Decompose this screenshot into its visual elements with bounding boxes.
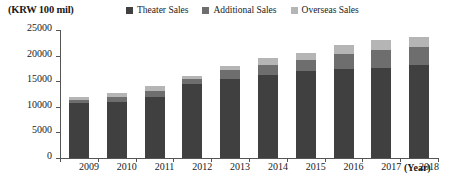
bar-segment [334, 45, 354, 54]
bar-group [371, 40, 391, 158]
bar-segment [69, 103, 89, 158]
legend-item: Overseas Sales [291, 6, 359, 16]
bar-segment [409, 65, 429, 158]
chart-legend: Theater SalesAdditional SalesOverseas Sa… [126, 6, 359, 16]
bar-segment [258, 75, 278, 158]
x-axis-label: 2010 [107, 162, 147, 172]
legend-item: Theater Sales [126, 6, 188, 16]
bar-segment [334, 54, 354, 69]
bar-segment [371, 50, 391, 67]
y-axis-tick-label: 0 [47, 151, 52, 161]
bar-segment [371, 40, 391, 50]
x-axis-label: 2016 [334, 162, 374, 172]
bar-segment [409, 37, 429, 47]
x-axis-label: 2011 [145, 162, 185, 172]
bar-group [220, 66, 240, 158]
bar-segment [220, 79, 240, 158]
x-axis-label: 2009 [69, 162, 109, 172]
y-axis-tick-label: 10000 [27, 100, 52, 110]
bar-segment [334, 69, 354, 158]
x-axis-title: (Year) [404, 162, 431, 173]
stacked-bar-chart: (KRW 100 mil) Theater SalesAdditional Sa… [0, 0, 452, 189]
bar-segment [107, 102, 127, 158]
y-axis-tick-label: 15000 [27, 74, 52, 84]
legend-swatch-icon [202, 7, 209, 14]
bar-segment [182, 84, 202, 158]
legend-swatch-icon [291, 7, 298, 14]
x-axis-label: 2012 [182, 162, 222, 172]
plot-area: 0500010000150002000025000 [60, 30, 438, 158]
y-axis-tick-label: 20000 [27, 49, 52, 59]
y-axis-unit-label: (KRW 100 mil) [8, 4, 74, 15]
bar-segment [258, 65, 278, 75]
bar-group [182, 76, 202, 158]
x-axis-labels: 2009201020112012201320142015201620172018 [60, 162, 438, 178]
legend-item-label: Overseas Sales [302, 6, 359, 16]
bar-segment [296, 71, 316, 158]
bar-series-container [60, 30, 438, 158]
bar-segment [258, 58, 278, 65]
bar-segment [409, 47, 429, 65]
bar-segment [296, 53, 316, 60]
bar-segment [220, 70, 240, 78]
legend-item: Additional Sales [202, 6, 276, 16]
legend-swatch-icon [126, 7, 133, 14]
bar-group [107, 93, 127, 159]
bar-segment [145, 97, 165, 158]
x-axis-label: 2014 [258, 162, 298, 172]
y-axis-tick-label: 25000 [27, 23, 52, 33]
bar-group [409, 37, 429, 158]
bar-segment [371, 68, 391, 158]
bar-group [145, 86, 165, 158]
x-axis-label: 2015 [296, 162, 336, 172]
y-axis-tick-label: 5000 [32, 125, 52, 135]
legend-item-label: Theater Sales [137, 6, 188, 16]
bar-group [258, 58, 278, 158]
x-axis-label: 2013 [220, 162, 260, 172]
bar-group [69, 97, 89, 158]
bar-group [334, 45, 354, 158]
bar-group [296, 53, 316, 158]
bar-segment [296, 60, 316, 71]
legend-item-label: Additional Sales [213, 6, 276, 16]
